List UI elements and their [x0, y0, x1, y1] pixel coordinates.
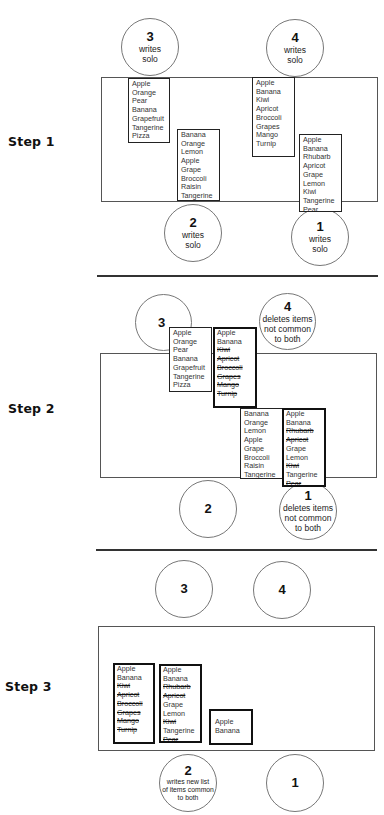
student-action: writes new list: [167, 778, 209, 786]
step-2-student-1-list: AppleBananaRhubarbApricotGrapeLemonKiwiT…: [282, 408, 326, 487]
list-item: Pizza: [132, 132, 169, 141]
step-2-student-2-circle: 2: [179, 480, 237, 538]
student-number: 1: [304, 489, 311, 503]
step-divider: [97, 275, 378, 277]
student-action: writes: [284, 45, 306, 55]
step-2-student-3-list: AppleOrangePearBananaGrapefruitTangerine…: [169, 327, 212, 392]
list-item-deleted: Turnip: [117, 726, 153, 735]
step-3-student-1-circle: 1: [266, 754, 324, 812]
step-3-student-4-circle: 4: [253, 561, 311, 619]
student-number: 4: [291, 31, 298, 45]
list-item-deleted: Turnip: [217, 390, 255, 399]
step-1-student-2-circle: 2 writes solo: [164, 204, 222, 262]
step-2-student-4-circle: 4 deletes items not common to both: [259, 293, 316, 350]
student-action: of items common: [162, 786, 214, 794]
student-action: writes: [309, 234, 331, 244]
student-action: solo: [185, 240, 201, 250]
list-item: Turnip: [256, 140, 294, 149]
student-action: to both: [178, 794, 199, 802]
step-3-common-list: AppleBanana: [209, 709, 253, 745]
step-1-label: Step 1: [8, 134, 55, 149]
step-1-student-1-circle: 1 writes solo: [291, 208, 349, 266]
step-3-student-3-circle: 3: [155, 560, 213, 618]
student-number: 1: [316, 220, 323, 234]
list-item: Tangerine: [244, 471, 282, 479]
student-action: deletes items: [262, 314, 312, 324]
step-1-student-3-list: AppleOrangePearBananaGrapefruitTangerine…: [128, 78, 170, 143]
step-divider: [96, 549, 377, 551]
list-item: Pizza: [173, 381, 211, 390]
list-item-deleted: Pear: [163, 736, 200, 743]
step-1-student-2-list: BananaOrangeLemonAppleGrapeBroccoliRaisi…: [177, 129, 220, 201]
step-3-label: Step 3: [5, 679, 52, 694]
student-action: writes: [182, 230, 204, 240]
student-action: deletes items: [283, 503, 333, 513]
step-3-student-1-list: AppleBananaRhubarbApricotGrapeLemonKiwiT…: [159, 664, 202, 743]
step-1-student-4-circle: 4 writes solo: [266, 19, 324, 77]
student-number: 3: [146, 30, 153, 44]
list-item: Tangerine: [181, 192, 219, 201]
student-number: 1: [291, 776, 298, 790]
list-item: Pear: [303, 206, 341, 212]
list-item: Banana: [215, 727, 251, 736]
student-action: solo: [287, 55, 303, 65]
student-number: 4: [278, 583, 285, 597]
step-3-student-4-list: AppleBananaKiwiApricotBroccoliGrapesMang…: [113, 663, 155, 744]
student-action: solo: [312, 244, 328, 254]
student-number: 4: [284, 300, 291, 314]
student-number: 2: [204, 502, 211, 516]
student-number: 3: [158, 316, 165, 330]
student-number: 2: [184, 764, 191, 778]
student-action: writes: [139, 44, 161, 54]
step-2-student-1-circle: 1 deletes items not common to both: [279, 482, 337, 540]
step-2-student-4-list: AppleBananaKiwiApricotBroccoliGrapesMang…: [213, 327, 257, 408]
step-1-student-1-list: AppleBananaRhubarbApricotGrapeLemonKiwiT…: [299, 134, 342, 212]
step-2-student-2-list: BananaOrangeLemonAppleGrapeBroccoliRaisi…: [240, 408, 283, 479]
student-number: 3: [180, 582, 187, 596]
step-1-student-3-circle: 3 writes solo: [121, 18, 179, 76]
student-action: not common: [264, 324, 311, 334]
list-item-deleted: Pear: [286, 480, 324, 487]
student-action: not common: [285, 513, 332, 523]
step-3-student-2-circle: 2 writes new list of items common to bot…: [159, 754, 217, 812]
student-action: solo: [142, 54, 158, 64]
student-number: 2: [189, 216, 196, 230]
student-action: to both: [275, 334, 301, 344]
step-1-student-4-list: AppleBananaKiwiApricotBroccoliGrapesMang…: [252, 77, 295, 157]
student-action: to both: [295, 523, 321, 533]
step-2-label: Step 2: [8, 401, 55, 416]
